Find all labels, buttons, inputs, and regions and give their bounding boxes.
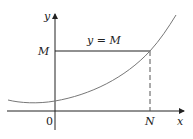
m-tick-label: M	[37, 45, 50, 58]
n-tick-label: N	[144, 115, 155, 128]
bound-line-label: y = M	[86, 34, 121, 47]
function-bound-diagram: y M y = M 0 N x	[0, 0, 193, 139]
origin-label: 0	[46, 115, 53, 128]
function-curve	[8, 15, 176, 103]
x-axis-label: x	[177, 115, 184, 128]
y-axis-label: y	[43, 10, 51, 23]
